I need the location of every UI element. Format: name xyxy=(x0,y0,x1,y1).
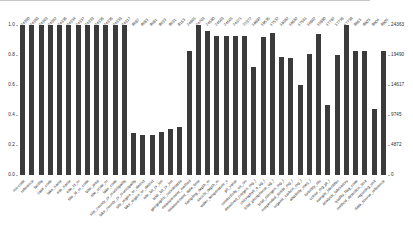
y-tick-label-right: 4872 xyxy=(391,143,413,148)
y-tick-label-left: 0.8 xyxy=(2,53,15,58)
y-tick-mark-right xyxy=(388,175,390,176)
bar-slot xyxy=(74,25,83,175)
bar-slot xyxy=(166,25,175,175)
bar-slot xyxy=(27,25,36,175)
bar-slot xyxy=(323,25,332,175)
bar[interactable] xyxy=(94,25,99,175)
bar-slot xyxy=(18,25,27,175)
bar-slot xyxy=(101,25,110,175)
bars-layer xyxy=(18,25,388,175)
bar-slot xyxy=(185,25,194,175)
bar[interactable] xyxy=(150,135,155,176)
bar[interactable] xyxy=(66,25,71,175)
bar[interactable] xyxy=(57,25,62,175)
bar[interactable] xyxy=(196,25,201,175)
bar-slot xyxy=(333,25,342,175)
y-tick-label-left: 0.0 xyxy=(2,173,15,178)
y-tick-label-right: 0 xyxy=(391,173,413,178)
bar-slot xyxy=(46,25,55,175)
bar[interactable] xyxy=(261,37,266,175)
bar-slot xyxy=(314,25,323,175)
bar-slot xyxy=(231,25,240,175)
bar[interactable] xyxy=(307,54,312,176)
bar-slot xyxy=(379,25,388,175)
bar-slot xyxy=(249,25,258,175)
bar[interactable] xyxy=(214,36,219,176)
bar-slot xyxy=(194,25,203,175)
bar[interactable] xyxy=(233,36,238,176)
bar[interactable] xyxy=(177,127,182,175)
bar-slot xyxy=(212,25,221,175)
y-tick-mark-right xyxy=(388,115,390,116)
bar-slot xyxy=(148,25,157,175)
figure-container: 0.00.20.40.60.81.0 048729745146171949024… xyxy=(0,0,413,251)
y-tick-mark-right xyxy=(388,85,390,86)
y-tick-label-left: 0.4 xyxy=(2,113,15,118)
bar-slot xyxy=(138,25,147,175)
bar[interactable] xyxy=(20,25,25,175)
y-tick-label-right: 24363 xyxy=(391,23,413,28)
bar-slot xyxy=(92,25,101,175)
y-tick-label-right: 9745 xyxy=(391,113,413,118)
bar-slot xyxy=(129,25,138,175)
bar-slot xyxy=(305,25,314,175)
bar-slot xyxy=(277,25,286,175)
y-tick-label-left: 0.6 xyxy=(2,83,15,88)
bar[interactable] xyxy=(131,133,136,175)
bar[interactable] xyxy=(251,67,256,175)
bar-slot xyxy=(203,25,212,175)
bar[interactable] xyxy=(122,25,127,175)
bar[interactable] xyxy=(270,33,275,176)
y-tick-label-left: 0.2 xyxy=(2,143,15,148)
bar-slot xyxy=(120,25,129,175)
bar[interactable] xyxy=(113,25,118,175)
bar[interactable] xyxy=(159,132,164,176)
y-tick-label-left: 1.0 xyxy=(2,23,15,28)
bar-slot xyxy=(83,25,92,175)
bar[interactable] xyxy=(224,36,229,176)
bar-slot xyxy=(370,25,379,175)
bar-slot xyxy=(360,25,369,175)
bar-slot xyxy=(286,25,295,175)
y-tick-mark-right xyxy=(388,25,390,26)
bar[interactable] xyxy=(85,25,90,175)
plot-area xyxy=(18,25,388,175)
bar-slot xyxy=(55,25,64,175)
bar[interactable] xyxy=(168,129,173,176)
y-tick-mark-right xyxy=(388,145,390,146)
bar[interactable] xyxy=(344,25,349,175)
bar[interactable] xyxy=(279,57,284,176)
axis-baseline xyxy=(0,0,370,1)
bar[interactable] xyxy=(362,51,367,176)
bar[interactable] xyxy=(205,31,210,175)
bar[interactable] xyxy=(39,25,44,175)
bar[interactable] xyxy=(288,58,293,175)
bar[interactable] xyxy=(325,105,330,176)
y-tick-label-right: 14617 xyxy=(391,83,413,88)
y-tick-label-right: 19490 xyxy=(391,53,413,58)
bar-slot xyxy=(175,25,184,175)
bar[interactable] xyxy=(381,51,386,176)
bar-slot xyxy=(240,25,249,175)
bar[interactable] xyxy=(353,51,358,176)
bar[interactable] xyxy=(29,25,34,175)
bar[interactable] xyxy=(316,34,321,175)
bar-slot xyxy=(342,25,351,175)
bar-slot xyxy=(111,25,120,175)
bar[interactable] xyxy=(298,85,303,175)
bar[interactable] xyxy=(76,25,81,175)
bar[interactable] xyxy=(187,51,192,176)
bar[interactable] xyxy=(48,25,53,175)
bar-slot xyxy=(268,25,277,175)
bar[interactable] xyxy=(140,135,145,176)
bar[interactable] xyxy=(103,25,108,175)
bar[interactable] xyxy=(335,55,340,175)
bar[interactable] xyxy=(242,36,247,176)
bar-slot xyxy=(296,25,305,175)
bar-slot xyxy=(157,25,166,175)
bar-slot xyxy=(351,25,360,175)
y-tick-mark-right xyxy=(388,55,390,56)
bar-slot xyxy=(222,25,231,175)
bar[interactable] xyxy=(372,109,377,175)
bar-slot xyxy=(259,25,268,175)
